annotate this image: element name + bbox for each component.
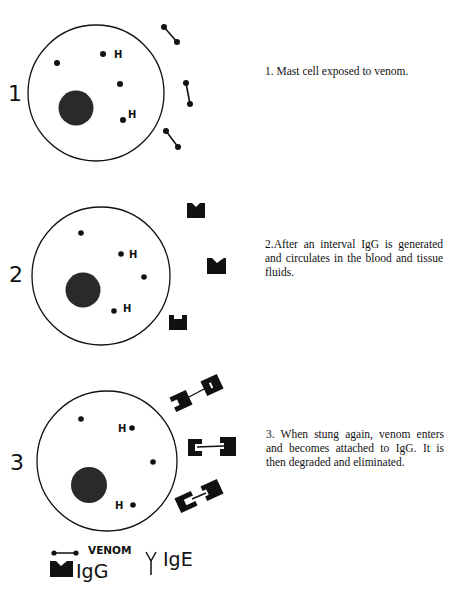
mast-cell-diagram: 1 H H 2 H H	[0, 0, 468, 598]
granule	[54, 60, 60, 66]
histamine-label: H	[118, 423, 126, 434]
legend-venom-label: VENOM	[88, 544, 131, 556]
histamine-label: H	[129, 249, 137, 260]
legend-ige-label: IgE	[163, 548, 193, 570]
histamine-label: H	[128, 109, 136, 120]
igg-venom-complex-icon	[169, 374, 223, 412]
igg-icon	[207, 258, 226, 274]
venom-icon	[161, 24, 180, 45]
igg-venom-complex-icon	[188, 437, 236, 456]
histamine-label: H	[115, 500, 123, 511]
histamine-label: H	[123, 303, 131, 314]
histamine-granule	[120, 117, 126, 123]
nucleus-1	[59, 91, 94, 126]
stage-1: 1 H H	[8, 24, 193, 161]
stage-3-caption: 3. When stung again, venom enters and be…	[266, 427, 444, 469]
histamine-label: H	[114, 49, 122, 60]
granule	[141, 274, 147, 280]
legend: VENOM IgG IgE	[50, 544, 193, 582]
stage-3-number: 3	[10, 450, 24, 475]
igg-icon	[169, 315, 187, 330]
legend-igg-label: IgG	[76, 560, 108, 582]
granule	[117, 81, 123, 87]
stage-2-number: 2	[9, 262, 23, 287]
histamine-granule	[118, 251, 124, 257]
igg-icon	[187, 203, 205, 218]
legend-ige-icon	[146, 552, 156, 575]
stage-2: 2 H H	[9, 203, 226, 345]
granule	[78, 416, 84, 422]
mast-cell-3	[37, 391, 177, 531]
venom-icon	[163, 128, 181, 150]
stage-1-caption: 1. Mast cell exposed to venom.	[265, 64, 468, 78]
venom-icon	[183, 80, 193, 107]
nucleus-2	[66, 273, 101, 308]
legend-venom-icon	[51, 550, 78, 555]
stage-1-number: 1	[8, 81, 22, 106]
stage-3: 3 H H	[10, 374, 236, 531]
histamine-granule	[111, 308, 117, 314]
histamine-granule	[100, 51, 106, 57]
nucleus-3	[71, 467, 107, 503]
mast-cell-1	[28, 25, 164, 161]
legend-igg-icon	[50, 561, 73, 577]
mast-cell-2	[32, 207, 170, 345]
granule	[78, 230, 84, 236]
stage-2-caption: 2.After an interval IgG is generated and…	[265, 237, 443, 279]
granule	[150, 459, 156, 465]
histamine-granule	[129, 425, 135, 431]
histamine-granule	[130, 502, 136, 508]
igg-venom-complex-icon	[174, 479, 223, 513]
